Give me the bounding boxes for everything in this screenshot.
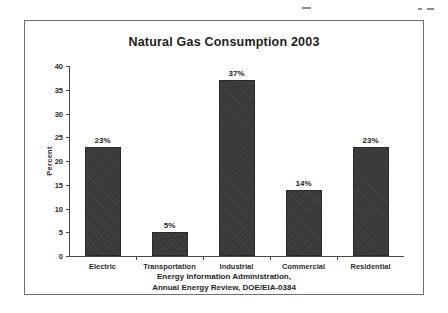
x-axis-category-label: Transportation [143, 262, 196, 271]
source-note: Energy Information Administration, Annua… [25, 271, 423, 293]
y-axis-tick [66, 66, 70, 67]
y-axis-tick [66, 114, 70, 115]
y-axis-tick [66, 232, 70, 233]
bar-value-label: 14% [295, 179, 311, 188]
scan-artifact-mark [418, 8, 422, 10]
y-axis-tick-label: 30 [55, 109, 63, 118]
x-axis-line [69, 256, 404, 257]
y-axis-tick-label: 15 [55, 180, 63, 189]
bar: 23% [353, 147, 389, 256]
y-axis-tick [66, 256, 70, 257]
bar-value-label: 23% [94, 136, 110, 145]
y-axis-tick [66, 185, 70, 186]
y-axis-tick-label: 35 [55, 85, 63, 94]
chart-title: Natural Gas Consumption 2003 [25, 35, 423, 49]
source-line-2: Annual Energy Review, DOE/EIA-0384 [25, 282, 423, 293]
y-axis-tick [66, 90, 70, 91]
y-axis-tick-label: 0 [59, 252, 63, 261]
x-axis-category-label: Commercial [282, 262, 325, 271]
y-axis-tick-label: 25 [55, 133, 63, 142]
bar: 14% [286, 190, 322, 257]
bar: 23% [85, 147, 121, 256]
y-axis-tick-label: 20 [55, 157, 63, 166]
y-axis-tick [66, 209, 70, 210]
y-axis-tick-label: 5 [59, 228, 63, 237]
y-axis-tick-label: 10 [55, 204, 63, 213]
x-axis-tick [337, 256, 338, 260]
y-axis-tick [66, 137, 70, 138]
y-axis-tick-label: 40 [55, 62, 63, 71]
scan-artifact-mark [302, 7, 311, 9]
x-axis-tick [203, 256, 204, 260]
x-axis-tick [270, 256, 271, 260]
bar-value-label: 5% [164, 221, 176, 230]
bar-value-label: 37% [228, 69, 244, 78]
bar: 5% [152, 232, 188, 256]
bar: 37% [219, 80, 255, 256]
plot-area: Percent 0510152025303540 23%5%37%14%23% … [69, 66, 404, 256]
scan-artifact-mark [427, 8, 434, 10]
y-axis-title: Percent [45, 146, 54, 176]
x-axis-category-label: Residential [350, 262, 390, 271]
x-axis-category-label: Electric [89, 262, 116, 271]
y-axis-tick [66, 161, 70, 162]
bar-value-label: 23% [362, 136, 378, 145]
x-axis-tick [136, 256, 137, 260]
figure-frame: Natural Gas Consumption 2003 Percent 051… [24, 20, 424, 295]
source-line-1: Energy Information Administration, [25, 271, 423, 282]
x-axis-category-label: Industrial [220, 262, 254, 271]
